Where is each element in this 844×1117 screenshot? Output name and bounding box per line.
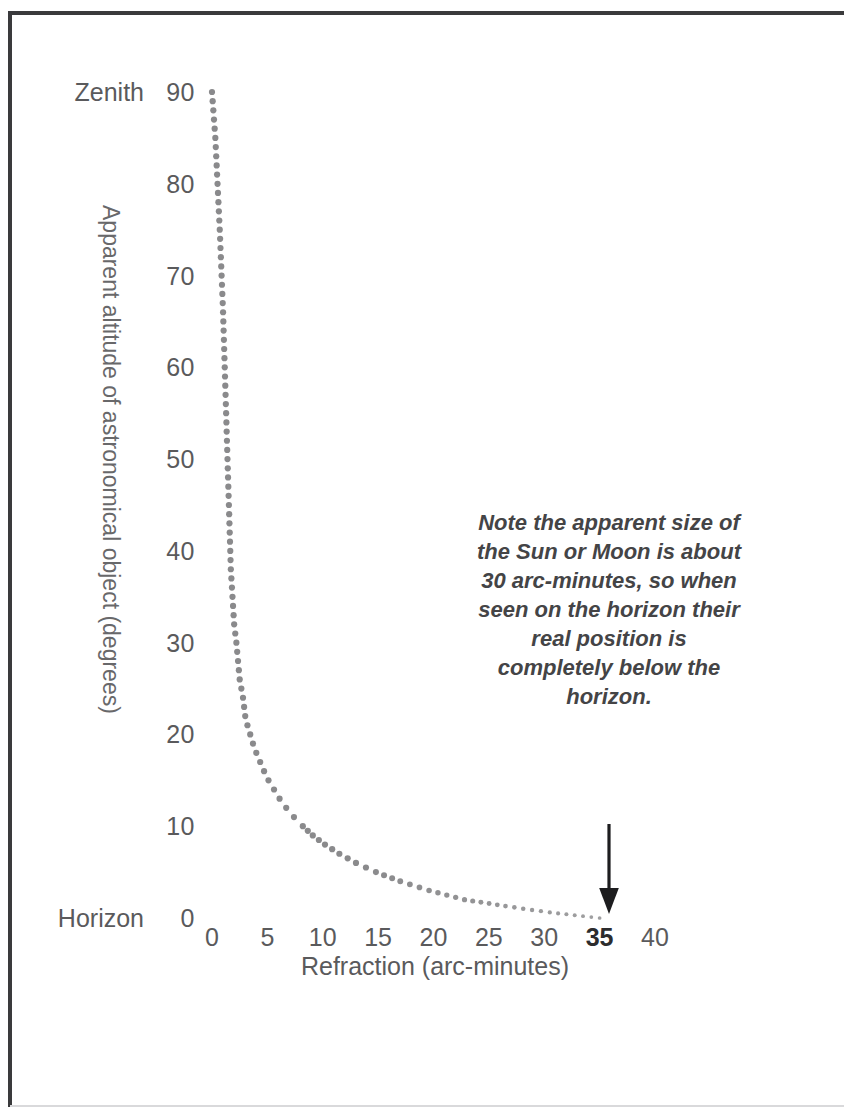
data-point [598,916,602,920]
data-point [530,908,534,912]
data-point [230,603,236,609]
data-point [253,750,259,756]
data-point [381,872,387,878]
data-point [220,300,226,306]
data-point [581,914,585,918]
y-axis-tick-20: 20 [147,722,195,747]
data-point [241,704,247,710]
data-point [223,401,229,407]
data-point [247,731,253,737]
data-point [212,135,218,141]
data-point [226,511,232,517]
data-point [228,575,234,581]
data-point [224,428,230,434]
data-point [244,722,250,728]
data-point [226,502,232,508]
data-point [300,823,306,829]
data-point [233,640,239,646]
data-point [226,493,232,499]
data-point [478,900,483,905]
data-point [283,805,289,811]
data-point [213,144,219,150]
data-point [215,190,221,196]
y-axis-end-label-zenith: Zenith [60,80,144,105]
data-point [218,254,224,260]
x-axis-tick-25: 25 [462,925,516,950]
data-point [225,474,231,480]
x-axis-tick-35: 35 [573,925,627,950]
data-point [224,438,230,444]
data-point [221,328,227,334]
data-point [223,410,229,416]
data-point [220,318,226,324]
data-point [231,612,237,618]
data-point [548,910,552,914]
y-axis-tick-10: 10 [147,814,195,839]
data-point [225,484,231,490]
data-point [261,768,267,774]
data-point [224,456,230,462]
chart-annotation-note: Note the apparent size of the Sun or Moo… [476,508,742,711]
data-point [407,881,413,887]
data-point [212,126,218,132]
data-point [589,915,593,919]
data-point [225,465,231,471]
x-axis-tick-40: 40 [628,925,682,950]
data-point [221,337,227,343]
data-point [223,419,229,425]
data-point [215,199,221,205]
data-point [227,557,233,563]
data-point [271,786,277,792]
data-point [214,181,220,187]
data-point [221,355,227,361]
data-point [322,841,328,847]
y-axis-tick-50: 50 [147,447,195,472]
data-point [240,695,246,701]
y-axis-tick-70: 70 [147,264,195,289]
data-point [213,153,219,159]
data-point [218,263,224,269]
data-point [573,913,577,917]
data-point [426,888,432,894]
y-axis-tick-80: 80 [147,172,195,197]
data-point [316,837,322,843]
y-axis-tick-40: 40 [147,539,195,564]
data-point [216,217,222,223]
data-point [353,860,359,866]
data-point [214,172,220,178]
data-point [345,855,351,861]
data-point [238,685,244,691]
data-point [291,814,297,820]
data-point [363,864,369,870]
data-point [227,548,233,554]
data-point [389,875,395,881]
x-axis-tick-15: 15 [351,925,405,950]
data-point [216,208,222,214]
data-point [217,227,223,233]
data-point [221,346,227,352]
data-point [417,885,423,891]
data-point [222,392,228,398]
data-point [276,796,282,802]
data-point [217,245,223,251]
x-axis-tick-10: 10 [296,925,350,950]
data-point [444,892,449,897]
data-point [487,901,492,906]
data-point [232,630,238,636]
data-point [211,116,217,122]
y-axis-tick-30: 30 [147,631,195,656]
x-axis-tick-0: 0 [185,925,239,950]
data-point [397,878,403,884]
data-point [209,89,215,95]
data-point [219,291,225,297]
y-axis-end-label-horizon: Horizon [46,906,144,931]
data-point [257,759,263,765]
data-point [228,566,234,572]
data-point [539,909,543,913]
data-point [310,832,316,838]
data-point [470,898,475,903]
data-point [229,585,235,591]
data-point [229,594,235,600]
y-axis-title: Apparent altitude of astronomical object… [97,205,124,714]
x-axis-tick-5: 5 [240,925,294,950]
